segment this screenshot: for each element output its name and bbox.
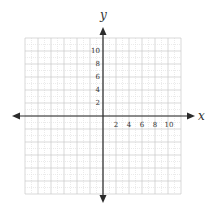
y-axis-label: y (99, 8, 107, 22)
x-tick-10: 10 (165, 121, 174, 129)
y-tick-6: 6 (96, 73, 101, 81)
y-axis-up-arrow-icon (100, 27, 107, 35)
x-tick-8: 8 (153, 121, 157, 129)
coordinate-plane: y x 2 4 6 8 10 2 4 6 8 10 (0, 0, 207, 211)
y-tick-4: 4 (96, 86, 101, 94)
x-tick-4: 4 (127, 121, 132, 129)
x-axis-label: x (198, 109, 205, 123)
x-tick-2: 2 (114, 121, 118, 129)
y-tick-2: 2 (96, 99, 100, 107)
x-axis-right-arrow-icon (187, 113, 195, 120)
y-tick-8: 8 (96, 60, 100, 68)
x-tick-6: 6 (140, 121, 145, 129)
y-tick-10: 10 (91, 47, 100, 55)
x-axis-left-arrow-icon (12, 113, 20, 120)
y-axis (100, 27, 107, 203)
y-axis-down-arrow-icon (100, 195, 107, 203)
